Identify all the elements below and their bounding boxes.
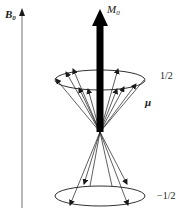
b0-label: B0 bbox=[5, 9, 16, 22]
m0-label: M0 bbox=[107, 4, 120, 17]
b0-axis-arrow bbox=[19, 8, 25, 208]
upper-state-label: 1/2 bbox=[160, 71, 173, 81]
lower-cone-vectors bbox=[70, 132, 128, 205]
lower-state-label: −1/2 bbox=[157, 191, 175, 201]
diagram-canvas bbox=[0, 0, 184, 220]
moment-label: μ bbox=[145, 97, 151, 108]
lower-precession-circle bbox=[55, 186, 145, 206]
spin-diagram: B0 M0 1/2 μ −1/2 bbox=[0, 0, 184, 220]
